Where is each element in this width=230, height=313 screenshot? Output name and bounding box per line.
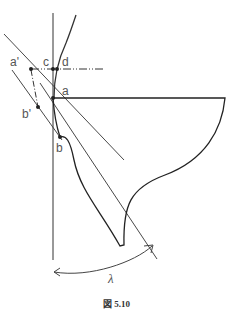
main-shape <box>53 98 225 246</box>
label-c: c <box>43 55 49 69</box>
label-a-prime: a' <box>10 55 19 69</box>
label-b: b <box>56 141 63 155</box>
point-a-prime <box>29 67 33 71</box>
figure-diagram: a' c d a b' b λ 図 5.10 <box>0 0 230 313</box>
label-lambda: λ <box>107 271 114 286</box>
figure-caption: 図 5.10 <box>103 299 131 309</box>
point-d <box>55 67 59 71</box>
label-b-prime: b' <box>22 107 31 121</box>
point-a <box>51 96 55 100</box>
point-c <box>51 67 55 71</box>
point-b-prime <box>36 105 40 109</box>
point-b <box>58 135 62 139</box>
diagonal-line-main <box>40 83 157 259</box>
lambda-arc <box>54 246 152 273</box>
label-d: d <box>62 55 69 69</box>
label-a: a <box>62 84 69 98</box>
